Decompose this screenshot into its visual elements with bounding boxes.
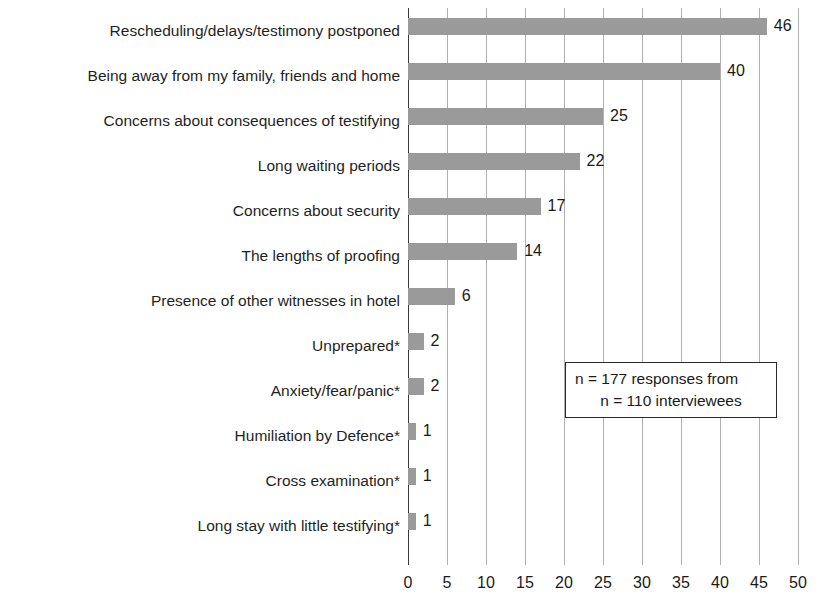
plot-area: 464025221714622111: [408, 8, 798, 565]
category-axis-labels: Rescheduling/delays/testimony postponedB…: [0, 8, 408, 565]
category-label: Concerns about security: [8, 201, 408, 221]
x-tick-label: 35: [672, 572, 690, 594]
category-label: Unprepared*: [8, 336, 408, 356]
category-label-row: Rescheduling/delays/testimony postponed: [0, 8, 408, 53]
bar-value-label: 1: [423, 509, 432, 533]
bar: [408, 333, 424, 350]
x-tick-label: 20: [555, 572, 573, 594]
bar-chart: Rescheduling/delays/testimony postponedB…: [0, 0, 823, 612]
x-tick-label: 0: [404, 572, 413, 594]
x-tick-label: 25: [594, 572, 612, 594]
category-label-row: Cross examination*: [0, 458, 408, 503]
bar-row: 46: [408, 8, 823, 53]
bar-value-label: 17: [548, 194, 566, 218]
category-label-row: Concerns about consequences of testifyin…: [0, 98, 408, 143]
category-label-row: Long waiting periods: [0, 143, 408, 188]
bar-value-label: 14: [524, 239, 542, 263]
bar: [408, 423, 416, 440]
bar-row: 1: [408, 503, 823, 548]
category-label: Rescheduling/delays/testimony postponed: [8, 21, 408, 41]
category-label: Being away from my family, friends and h…: [8, 66, 408, 86]
category-label-row: The lengths of proofing: [0, 233, 408, 278]
x-tick-label: 15: [516, 572, 534, 594]
category-label: Concerns about consequences of testifyin…: [8, 111, 408, 131]
category-label: Presence of other witnesses in hotel: [8, 291, 408, 311]
x-tick-label: 10: [477, 572, 495, 594]
bar-value-label: 6: [462, 284, 471, 308]
bar: [408, 288, 455, 305]
bar: [408, 468, 416, 485]
category-label: The lengths of proofing: [8, 246, 408, 266]
bar-row: 1: [408, 413, 823, 458]
category-label-row: Anxiety/fear/panic*: [0, 368, 408, 413]
bar: [408, 63, 720, 80]
bar-value-label: 1: [423, 419, 432, 443]
bar-value-label: 25: [610, 104, 628, 128]
category-label-row: Being away from my family, friends and h…: [0, 53, 408, 98]
bar-value-label: 22: [587, 149, 605, 173]
bar-value-label: 40: [727, 59, 745, 83]
bar-row: 22: [408, 143, 823, 188]
bar-row: 1: [408, 458, 823, 503]
bar: [408, 198, 541, 215]
bar-value-label: 1: [423, 464, 432, 488]
bar: [408, 378, 424, 395]
annotation-line-responses: n = 177 responses from: [566, 368, 738, 390]
bar: [408, 108, 603, 125]
category-label-row: Unprepared*: [0, 323, 408, 368]
bar-value-label: 46: [774, 14, 792, 38]
category-label: Long waiting periods: [8, 156, 408, 176]
bar-row: 40: [408, 53, 823, 98]
x-tick-label: 40: [711, 572, 729, 594]
bar: [408, 153, 580, 170]
bar: [408, 513, 416, 530]
bar-value-label: 2: [431, 374, 440, 398]
sample-size-annotation-box: n = 177 responses from n = 110 interview…: [565, 362, 777, 418]
category-label-row: Concerns about security: [0, 188, 408, 233]
category-label-row: Long stay with little testifying*: [0, 503, 408, 548]
x-tick-label: 30: [633, 572, 651, 594]
bar: [408, 18, 767, 35]
x-tick-label: 5: [443, 572, 452, 594]
category-label: Anxiety/fear/panic*: [8, 381, 408, 401]
x-tick-label: 50: [789, 572, 807, 594]
bar-row: 6: [408, 278, 823, 323]
category-label: Long stay with little testifying*: [8, 516, 408, 536]
bar-row: 14: [408, 233, 823, 278]
category-label-row: Humiliation by Defence*: [0, 413, 408, 458]
bar: [408, 243, 517, 260]
x-tick-label: 45: [750, 572, 768, 594]
bar-value-label: 2: [431, 329, 440, 353]
category-label: Cross examination*: [8, 471, 408, 491]
category-label-row: Presence of other witnesses in hotel: [0, 278, 408, 323]
bar-row: 25: [408, 98, 823, 143]
category-label: Humiliation by Defence*: [8, 426, 408, 446]
annotation-line-interviewees: n = 110 interviewees: [600, 390, 741, 412]
bar-row: 17: [408, 188, 823, 233]
